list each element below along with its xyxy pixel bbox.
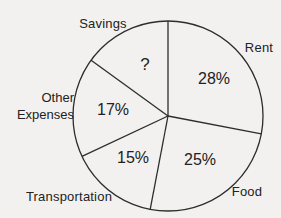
- slice-label-savings: Savings: [79, 17, 127, 31]
- slice-value-transportation: 15%: [117, 149, 149, 167]
- slice-value-food: 25%: [184, 151, 216, 169]
- slice-label-transportation: Transportation: [26, 190, 112, 204]
- slice-value-rent: 28%: [198, 70, 230, 88]
- slice-label-rent: Rent: [245, 41, 273, 55]
- budget-pie-chart: Savings Rent Other Expenses Transportati…: [0, 0, 281, 218]
- slice-label-other-expenses: Other Expenses: [6, 89, 74, 123]
- slice-value-other-expenses: 17%: [97, 101, 129, 119]
- slice-label-food: Food: [232, 185, 262, 199]
- slice-value-savings-unknown: ?: [140, 56, 149, 75]
